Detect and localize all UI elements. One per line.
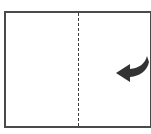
- diagram-description: Rectangular sheet with a vertical dashed…: [0, 0, 1, 1]
- dashed-fold-line: [78, 13, 79, 126]
- curved-fold-arrow-icon: [112, 54, 150, 84]
